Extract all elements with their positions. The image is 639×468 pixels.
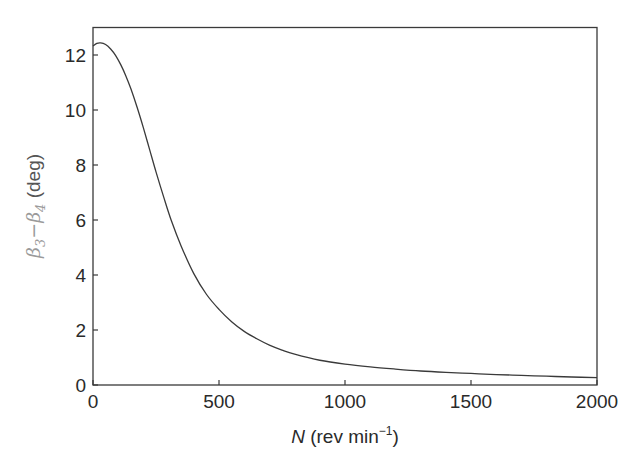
x-axis-label: N (rev min−1) — [291, 424, 399, 447]
y-tick-label: 10 — [65, 100, 86, 121]
y-tick-label: 4 — [75, 265, 86, 286]
x-tick-label: 500 — [203, 391, 235, 412]
y-tick-label: 12 — [65, 45, 86, 66]
x-tick-label: 1000 — [324, 391, 366, 412]
y-tick-label: 0 — [75, 375, 86, 396]
x-tick-label: 0 — [88, 391, 99, 412]
x-tick-label: 2000 — [576, 391, 618, 412]
y-tick-label: 8 — [75, 155, 86, 176]
y-tick-label: 2 — [75, 320, 86, 341]
line-chart: 0500100015002000 024681012 N (rev min−1)… — [0, 0, 639, 468]
y-tick-label: 6 — [75, 210, 86, 231]
y-axis-label: β3−β4 (deg) — [22, 154, 48, 259]
data-series-line — [93, 43, 597, 378]
plot-frame — [93, 28, 597, 386]
x-tick-label: 1500 — [450, 391, 492, 412]
